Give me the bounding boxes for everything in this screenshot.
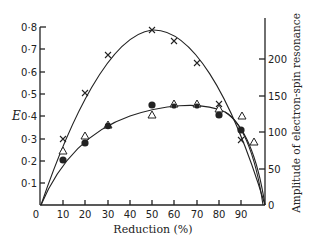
x-tick-label: 60 [168, 209, 181, 220]
x-axis: 0 10 20 30 40 50 60 70 80 90 Reduction (… [33, 200, 265, 236]
y-tick-label: 0·4 [21, 111, 37, 122]
y2-tick-label: 50 [268, 164, 281, 175]
y-tick-label: 0·7 [21, 44, 37, 55]
y-axis-label: E [11, 109, 21, 123]
x-tick-label: 50 [146, 209, 159, 220]
y2-tick-label: 100 [268, 127, 287, 138]
chart: 0·8 0·7 0·6 0·5 0·4 0·3 0·2 0·1 E 0 10 2… [0, 0, 309, 243]
y-tick-label: 0·2 [21, 156, 37, 167]
y-tick-label: 0·8 [21, 22, 37, 33]
x-tick-label: 10 [57, 209, 70, 220]
x-tick-label: 20 [79, 209, 92, 220]
triangle-series-curve [225, 112, 263, 205]
y-tick-label: 0·3 [21, 134, 37, 145]
x-tick-label: 80 [213, 209, 226, 220]
x-tick-label: 30 [102, 209, 115, 220]
x-tick-label: 70 [191, 209, 204, 220]
x-tick-label: 0 [33, 209, 39, 220]
y-tick-label: 0·1 [21, 178, 37, 189]
y2-axis-label: Amplitude of electron-spin resonance [290, 13, 302, 214]
y-tick-label: 0·6 [21, 67, 37, 78]
y2-tick-label: 200 [268, 54, 287, 65]
x-tick-label: 90 [235, 209, 248, 220]
left-y-axis: 0·8 0·7 0·6 0·5 0·4 0·3 0·2 0·1 E [11, 22, 46, 205]
x-tick-label: 40 [124, 209, 137, 220]
x-axis-label: Reduction (%) [113, 223, 192, 236]
y-tick-label: 0·5 [21, 89, 37, 100]
y2-tick-label: 0 [268, 200, 274, 211]
right-y-axis: 200 150 100 50 0 Amplitude of electron-s… [259, 13, 302, 214]
y2-tick-label: 150 [268, 91, 287, 102]
